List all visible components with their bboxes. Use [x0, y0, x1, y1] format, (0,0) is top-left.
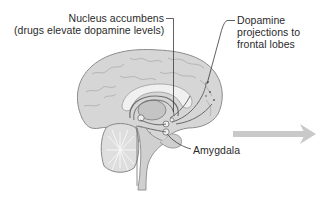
label-dopamine-projections-line3: frontal lobes [237, 38, 300, 50]
label-dopamine-projections: Dopamine projections to frontal lobes [237, 14, 300, 50]
arrow-right-icon [233, 124, 316, 144]
label-nucleus-accumbens: Nucleus accumbens (drugs elevate dopamin… [14, 12, 164, 36]
cerebellum [101, 124, 139, 173]
label-dopamine-projections-line1: Dopamine [237, 14, 300, 26]
label-amygdala: Amygdala [193, 144, 240, 156]
label-nucleus-accumbens-line2: (drugs elevate dopamine levels) [14, 24, 164, 36]
label-amygdala-line1: Amygdala [193, 144, 240, 156]
label-dopamine-projections-line2: projections to [237, 26, 300, 38]
label-nucleus-accumbens-line1: Nucleus accumbens [14, 12, 164, 24]
